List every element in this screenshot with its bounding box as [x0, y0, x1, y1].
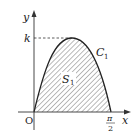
y-axis-label: y: [22, 11, 30, 24]
y-axis-arrow-icon: [32, 10, 37, 17]
origin-label: O: [25, 115, 33, 126]
pi-denominator: 2: [108, 124, 113, 133]
region-label-sub: 1: [70, 79, 74, 87]
curve-label-sub: 1: [104, 53, 108, 61]
x-axis-label: x: [122, 114, 129, 127]
diagram-canvas: y k O x π 2 C 1 S 1: [0, 0, 140, 139]
region-label-s: S: [62, 73, 70, 86]
pi-numerator: π: [106, 114, 113, 123]
k-tick-label: k: [24, 32, 31, 45]
